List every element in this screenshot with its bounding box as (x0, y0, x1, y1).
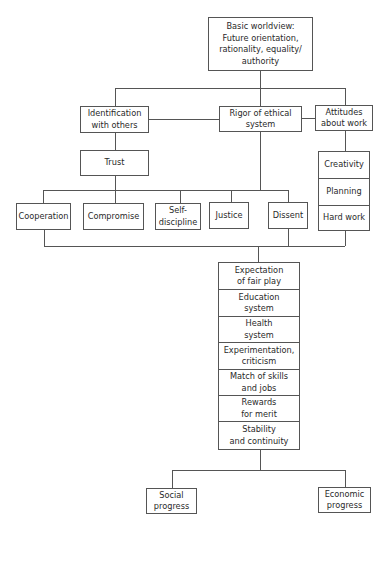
node-health-system: Health system (219, 317, 299, 343)
node-label: Identification with others (88, 108, 142, 131)
connector-line (43, 190, 288, 191)
connector-line (345, 131, 346, 151)
node-label: Hard work (323, 212, 365, 224)
connector-line (172, 470, 173, 488)
institutions-stack: Expectation of fair play Education syste… (218, 262, 300, 450)
node-label: Match of skills and jobs (230, 371, 288, 394)
node-label: Creativity (324, 159, 364, 171)
node-hard-work: Hard work (319, 206, 369, 231)
node-cooperation: Cooperation (16, 203, 71, 230)
node-economic-progress: Economic progress (318, 487, 371, 513)
work-attitudes-stack: Creativity Planning Hard work (318, 151, 370, 231)
connector-line (260, 88, 261, 106)
connector-line (260, 71, 261, 88)
connector-line (149, 119, 219, 120)
node-label: Social progress (154, 490, 189, 513)
node-dissent: Dissent (268, 202, 308, 229)
node-experimentation-criticism: Experimentation, criticism (219, 343, 299, 370)
node-label: Rigor of ethical system (229, 108, 291, 131)
connector-line (115, 88, 116, 106)
connector-line (302, 118, 315, 119)
node-social-progress: Social progress (146, 488, 197, 514)
node-rewards-for-merit: Rewards for merit (219, 396, 299, 422)
node-creativity: Creativity (319, 152, 369, 179)
connector-line (43, 190, 44, 203)
node-label: Economic progress (325, 489, 365, 512)
connector-line (288, 229, 289, 246)
node-label: Planning (326, 186, 361, 198)
node-identification-with-others: Identification with others (80, 106, 149, 133)
node-label: Attitudes about work (321, 107, 367, 130)
node-label: Education system (239, 292, 280, 315)
node-label: Health system (244, 318, 274, 341)
node-education-system: Education system (219, 290, 299, 317)
node-compromise: Compromise (83, 203, 144, 230)
node-attitudes-about-work: Attitudes about work (315, 105, 373, 131)
node-label: Experimentation, criticism (224, 345, 295, 368)
connector-line (260, 132, 261, 190)
node-label: Rewards for merit (241, 397, 277, 420)
node-stability-and-continuity: Stability and continuity (219, 422, 299, 449)
node-label: Expectation of fair play (235, 265, 284, 288)
node-label: Dissent (273, 210, 304, 222)
node-self-discipline: Self- discipline (155, 203, 201, 230)
node-label: Self- discipline (159, 205, 198, 228)
node-basic-worldview: Basic worldview: Future orientation, rat… (208, 17, 313, 71)
node-match-of-skills-and-jobs: Match of skills and jobs (219, 370, 299, 396)
connector-line (180, 190, 181, 203)
node-label: Compromise (88, 211, 140, 223)
connector-line (115, 133, 116, 150)
node-label: Basic worldview: Future orientation, rat… (219, 21, 302, 67)
node-planning: Planning (319, 179, 369, 206)
connector-line (258, 246, 259, 262)
connector-line (44, 246, 345, 247)
connector-line (260, 450, 261, 470)
node-label: Justice (216, 210, 243, 222)
connector-line (115, 88, 345, 89)
node-label: Stability and continuity (230, 424, 289, 447)
node-rigor-of-ethical-system: Rigor of ethical system (219, 106, 302, 132)
node-label: Cooperation (18, 211, 68, 223)
connector-line (44, 230, 45, 246)
node-expectation-of-fair-play: Expectation of fair play (219, 263, 299, 290)
connector-line (345, 470, 346, 487)
node-justice: Justice (209, 202, 249, 229)
node-trust: Trust (80, 150, 149, 176)
connector-line (345, 231, 346, 246)
connector-line (345, 88, 346, 105)
connector-line (172, 470, 345, 471)
node-label: Trust (105, 157, 125, 169)
